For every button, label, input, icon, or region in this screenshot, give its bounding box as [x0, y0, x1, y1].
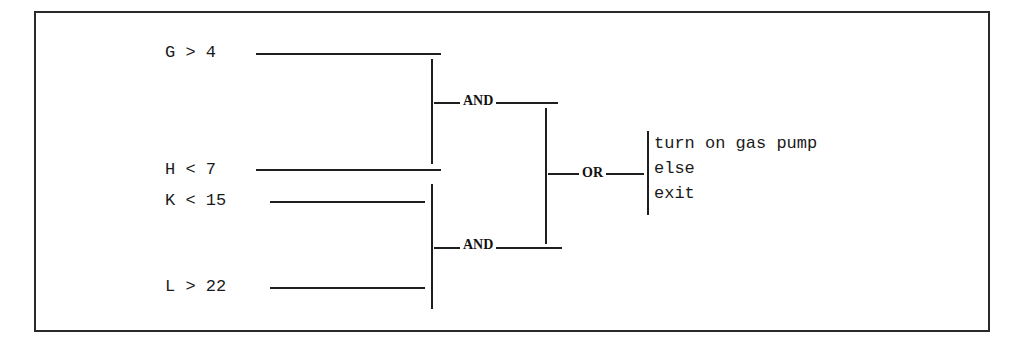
action-else: else [654, 158, 695, 179]
condition-l: L > 22 [165, 277, 226, 297]
or-gate-label: OR [579, 165, 606, 181]
and-bottom-output-line [434, 247, 562, 249]
connector-h [256, 169, 441, 171]
and-top-gate-label: AND [460, 93, 496, 109]
action-turn-on-gas-pump: turn on gas pump [654, 133, 817, 154]
condition-k: K < 15 [165, 191, 226, 211]
action-bracket [647, 131, 649, 215]
and-top-bracket [431, 59, 433, 164]
or-bracket [545, 108, 547, 244]
connector-g [256, 53, 441, 55]
and-bottom-gate-label: AND [460, 237, 496, 253]
and-bottom-bracket [431, 184, 433, 309]
condition-h: H < 7 [165, 160, 216, 180]
condition-g: G > 4 [165, 43, 216, 63]
connector-k [270, 201, 425, 203]
connector-l [270, 287, 425, 289]
action-exit: exit [654, 183, 695, 204]
